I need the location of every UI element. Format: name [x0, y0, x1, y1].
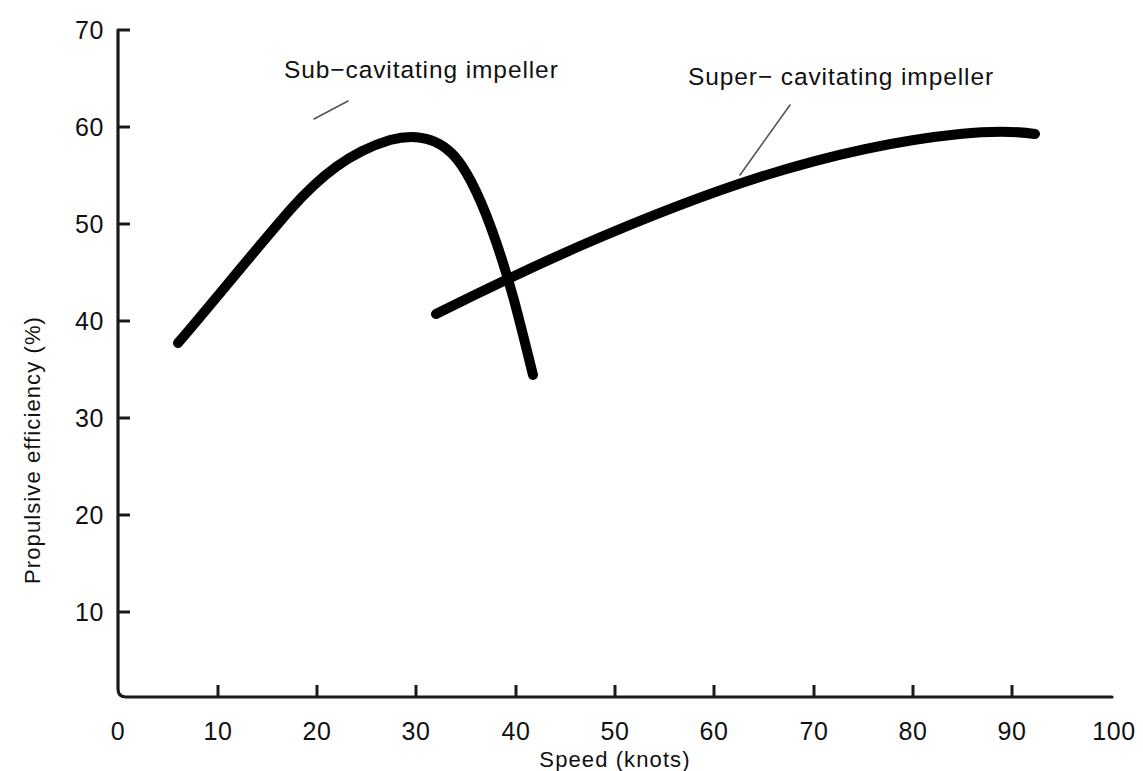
- x-tick-label: 70: [799, 717, 828, 745]
- x-axis-ticks: [218, 685, 1012, 697]
- y-tick-label: 60: [75, 113, 104, 141]
- x-tick-label: 30: [401, 717, 430, 745]
- y-tick-label: 50: [75, 210, 104, 238]
- x-tick-label: 40: [501, 717, 530, 745]
- y-tick-label: 70: [75, 16, 104, 44]
- x-tick-label: 60: [699, 717, 728, 745]
- x-tick-label: 100: [1092, 717, 1136, 745]
- chart-figure: 70 60 50 40 30 20 10 0 10 20 30 40 50 60…: [0, 0, 1143, 771]
- y-tick-label: 30: [75, 404, 104, 432]
- y-tick-label: 20: [75, 501, 104, 529]
- y-tick-label: 10: [75, 598, 104, 626]
- super-cavitating-leader-line: [740, 105, 790, 175]
- x-tick-label: 10: [203, 717, 232, 745]
- x-axis-tick-labels: 0 10 20 30 40 50 60 70 80 90 100: [111, 717, 1136, 745]
- y-tick-label: 40: [75, 307, 104, 335]
- sub-cavitating-label: Sub−cavitating impeller: [284, 56, 559, 83]
- x-tick-label: 50: [600, 717, 629, 745]
- x-axis-title: Speed (knots): [539, 747, 690, 771]
- x-tick-label: 20: [302, 717, 331, 745]
- super-cavitating-label: Super− cavitating impeller: [688, 63, 994, 90]
- y-axis-tick-labels: 70 60 50 40 30 20 10: [75, 16, 104, 626]
- x-tick-label: 90: [997, 717, 1026, 745]
- sub-cavitating-leader-line: [314, 101, 348, 119]
- y-axis-ticks: [118, 30, 130, 612]
- propulsive-efficiency-chart: 70 60 50 40 30 20 10 0 10 20 30 40 50 60…: [0, 0, 1143, 771]
- x-tick-label: 0: [111, 717, 126, 745]
- x-tick-label: 80: [898, 717, 927, 745]
- series-super-cavitating-impeller: [436, 132, 1035, 314]
- series-sub-cavitating-impeller: [178, 137, 533, 375]
- y-axis-title: Propulsive efficiency (%): [20, 316, 45, 584]
